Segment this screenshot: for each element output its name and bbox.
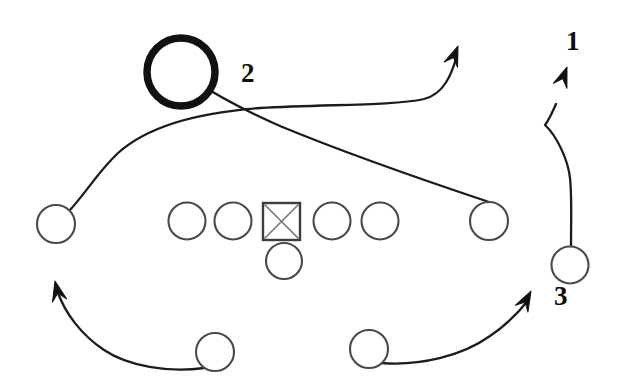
player-right-guard	[314, 203, 351, 240]
route-arrowhead-icon	[515, 288, 537, 312]
route-label-1: 1	[566, 26, 580, 56]
route-flanker-right	[545, 65, 574, 246]
route-left-wide-receiver	[70, 43, 465, 210]
player-slot-receiver-right	[470, 202, 508, 240]
player-flanker-right	[552, 247, 589, 284]
route-slot-receiver-right	[174, 56, 492, 203]
route-line	[70, 55, 457, 210]
player-running-back-left	[196, 333, 234, 371]
route-running-back-left	[48, 279, 204, 369]
route-line	[58, 293, 204, 370]
player-left-wide-receiver	[37, 205, 75, 243]
route-line	[381, 299, 529, 364]
player-running-back-right	[350, 330, 388, 368]
players-layer	[37, 38, 589, 371]
player-ball-target	[147, 38, 215, 106]
player-quarterback	[266, 243, 302, 279]
route-arrowhead-icon	[553, 65, 573, 89]
play-diagram-canvas: 123	[0, 0, 623, 391]
player-left-tackle	[169, 203, 206, 240]
player-left-guard	[215, 203, 252, 240]
route-line	[188, 77, 492, 203]
route-arrowhead-icon	[48, 279, 67, 302]
route-running-back-right	[381, 288, 537, 364]
player-right-tackle	[362, 203, 399, 240]
route-label-3: 3	[554, 281, 568, 311]
player-center	[263, 203, 300, 240]
play-diagram-svg: 123	[0, 0, 623, 391]
route-label-2: 2	[241, 58, 255, 88]
route-line	[545, 104, 571, 246]
